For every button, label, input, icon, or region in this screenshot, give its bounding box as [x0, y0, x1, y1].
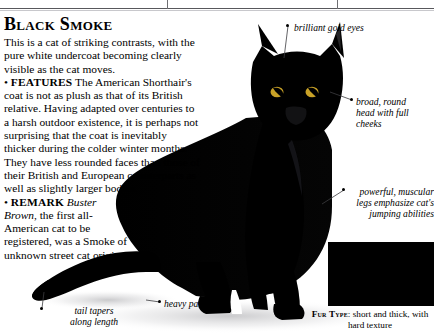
cat-tail-tip	[32, 280, 51, 299]
features-label: FEATURES	[11, 76, 73, 88]
article-intro: This is a cat of striking contrasts, wit…	[4, 36, 200, 76]
annotation-dot-legs	[342, 188, 345, 191]
leader-line-head	[330, 92, 352, 100]
features-text: The American Shorthair's coat is not as …	[4, 76, 200, 194]
leader-line-eyes	[284, 26, 288, 58]
cat-chest	[245, 110, 304, 296]
cat-chest-undercoat-highlight	[288, 140, 302, 196]
fur-type-label: Fur Type	[312, 309, 348, 319]
cat-front-leg-near	[270, 272, 300, 310]
annotation-dot-head	[350, 98, 353, 101]
article-remark: • REMARK Buster Brown, the first all-Ame…	[4, 196, 130, 262]
cat-head	[251, 44, 343, 141]
annotation-broad-round-head: broad, round head with full cheeks	[356, 96, 434, 129]
column-tick-mark-left	[167, 0, 168, 9]
cat-front-paw-near	[273, 304, 304, 320]
cat-hind-leg	[196, 262, 232, 302]
features-bullet: •	[4, 76, 8, 88]
cat-pupil-right	[308, 88, 318, 97]
page-top-rule	[0, 8, 434, 9]
leader-line-legs	[322, 190, 344, 204]
leader-line-tail	[42, 292, 44, 308]
annotation-dot-paws	[158, 300, 161, 303]
annotation-heavy-paws: heavy paws	[164, 298, 234, 309]
cat-eye-left	[271, 87, 284, 97]
annotation-dot-eyes	[286, 24, 289, 27]
cat-ear-left	[258, 24, 278, 54]
page-title: Black Smoke	[4, 14, 113, 34]
cat-pupil-left	[273, 88, 283, 97]
fur-type-swatch	[328, 242, 434, 306]
fur-type-caption: Fur Type: short and thick, with hard tex…	[306, 309, 434, 330]
annotation-tail-tapers: tail tapers along length	[46, 305, 142, 327]
remark-bullet: •	[4, 196, 8, 208]
article-features: • FEATURES The American Shorthair's coat…	[4, 76, 200, 196]
breed-profile-page: Black Smoke	[0, 0, 434, 336]
cat-muzzle-shading	[285, 107, 306, 125]
annotation-dot-tail	[40, 307, 43, 310]
fur-type-description: short and thick, with hard texture	[348, 309, 428, 330]
annotation-brilliant-gold-eyes: brilliant gold eyes	[294, 22, 424, 33]
page-top-rule-shadow	[0, 10, 434, 11]
article-body: This is a cat of striking contrasts, wit…	[4, 36, 200, 262]
remark-label: REMARK	[11, 196, 64, 208]
cat-eye-right	[306, 87, 319, 97]
annotation-powerful-legs: powerful, muscular legs emphasize cat's …	[348, 186, 434, 219]
column-tick-mark-right	[337, 0, 338, 9]
cat-front-leg-far	[248, 274, 268, 310]
